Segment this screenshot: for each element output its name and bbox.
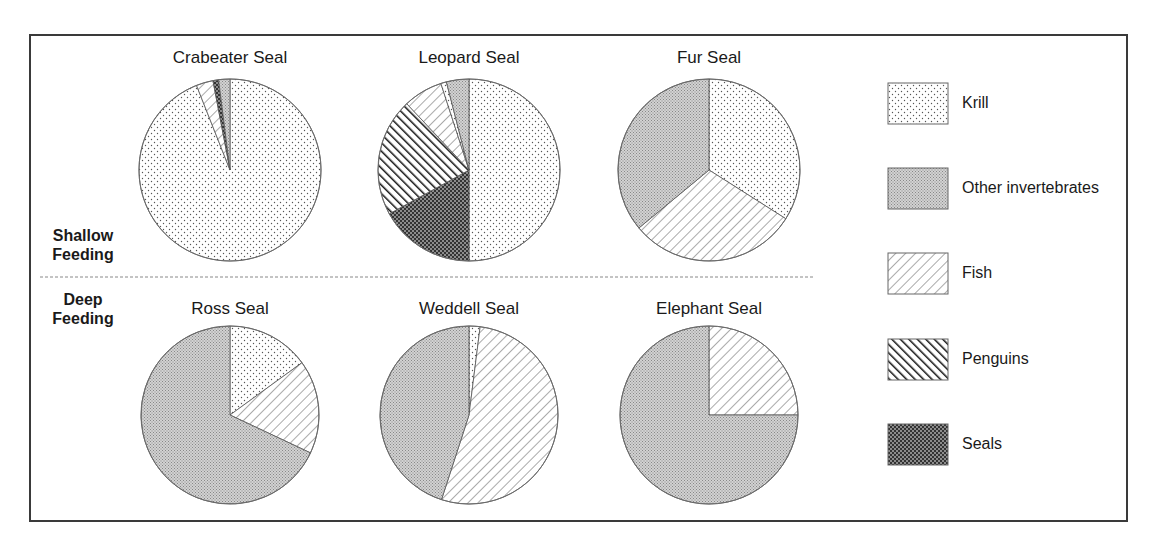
pie-crabeater-seal [139, 79, 321, 261]
legend-swatch-penguins [888, 339, 948, 380]
legend-swatch-seals [888, 424, 948, 465]
pie-leopard-seal [378, 79, 560, 261]
pie-title-fur: Fur Seal [599, 48, 819, 68]
legend-label-other-invertebrates: Other invertebrates [962, 179, 1099, 197]
legend-swatch-other-invertebrates [888, 168, 948, 209]
row-label-deep-line1: Deep [33, 290, 133, 309]
pie-weddell-seal [380, 326, 558, 504]
row-label-shallow-line1: Shallow [33, 226, 133, 245]
legend-label-fish: Fish [962, 264, 992, 282]
legend-label-seals: Seals [962, 435, 1002, 453]
pie-elephant-seal [620, 326, 798, 504]
legend-swatch-fish [888, 253, 948, 294]
row-label-shallow-feeding: Shallow Feeding [33, 226, 133, 264]
legend-swatches [888, 83, 948, 465]
slice-krill [469, 79, 560, 261]
row-label-deep-line2: Feeding [33, 309, 133, 328]
pie-title-weddell: Weddell Seal [359, 299, 579, 319]
pie-fur-seal [618, 79, 800, 261]
pie-title-crabeater: Crabeater Seal [120, 48, 340, 68]
pie-ross-seal [141, 326, 319, 504]
legend-label-krill: Krill [962, 94, 989, 112]
legend-swatch-krill [888, 83, 948, 124]
pie-title-leopard: Leopard Seal [359, 48, 579, 68]
slice-fish [709, 326, 798, 415]
pie-title-elephant: Elephant Seal [599, 299, 819, 319]
legend-label-penguins: Penguins [962, 350, 1029, 368]
pie-title-ross: Ross Seal [120, 299, 340, 319]
pies [139, 79, 800, 504]
row-label-deep-feeding: Deep Feeding [33, 290, 133, 328]
row-label-shallow-line2: Feeding [33, 245, 133, 264]
